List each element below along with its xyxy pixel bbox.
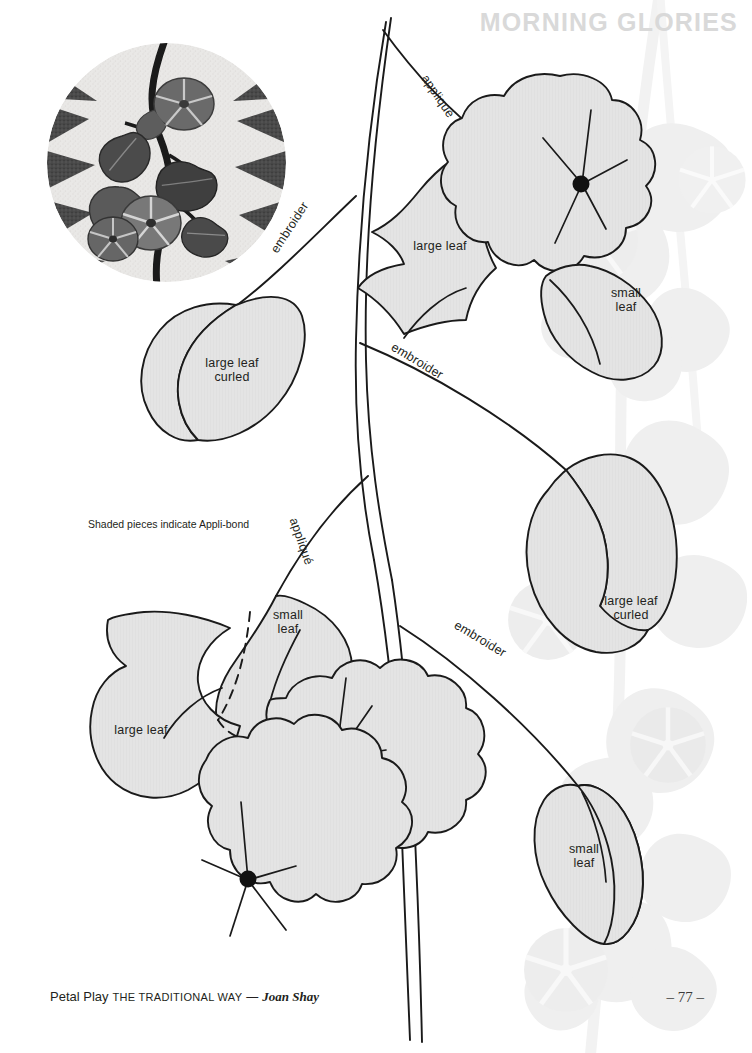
piece-label-large-leaf-bottom: large leaf <box>114 723 167 737</box>
shaded-pieces-note: Shaded pieces indicate Appli-bond <box>88 518 249 530</box>
piece-right-large-leaf-curled <box>527 454 677 652</box>
footer-author: Joan Shay <box>262 989 319 1005</box>
piece-label-small-leaf-bottom-right: small leaf <box>569 842 599 870</box>
piece-label-large-leaf-curled-left: large leaf curled <box>205 356 258 384</box>
page-number: – 77 – <box>667 989 705 1006</box>
footer-book-title: Petal Play <box>50 989 109 1004</box>
flower-center-dot <box>573 176 590 193</box>
piece-bottom-left-flower <box>199 715 412 936</box>
piece-label-large-leaf-curled-right: large leaf curled <box>604 594 657 622</box>
piece-label-small-leaf-bottom: small leaf <box>273 608 303 636</box>
footer-subtitle: THE TRADITIONAL WAY <box>113 991 243 1003</box>
footer: Petal Play THE TRADITIONAL WAY — Joan Sh… <box>50 989 319 1005</box>
piece-label-large-leaf-top: large leaf <box>413 239 466 253</box>
pattern-page: MORNING GLORIES <box>0 0 752 1053</box>
piece-top-small-leaf <box>541 265 662 380</box>
flower-center-dot <box>240 871 257 888</box>
footer-dash: — <box>246 990 258 1004</box>
piece-label-small-leaf-top: small leaf <box>611 286 641 314</box>
